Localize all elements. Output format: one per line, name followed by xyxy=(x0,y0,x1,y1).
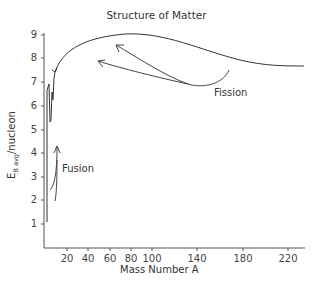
binding-energy-curve-light xyxy=(47,72,55,222)
svg-text:1: 1 xyxy=(31,218,37,229)
svg-text:5: 5 xyxy=(31,124,37,135)
svg-text:20: 20 xyxy=(61,253,74,264)
x-axis-label: Mass Number A xyxy=(120,264,199,275)
fission-arrowhead-lower-icon xyxy=(98,60,105,67)
svg-text:220: 220 xyxy=(278,253,297,264)
binding-energy-curve xyxy=(55,34,304,72)
svg-text:180: 180 xyxy=(233,253,252,264)
svg-text:7: 7 xyxy=(31,76,37,87)
y-tick-labels: 9 8 7 6 5 4 3 2 1 xyxy=(31,29,37,229)
svg-text:100: 100 xyxy=(142,253,161,264)
fusion-arrow-1 xyxy=(50,147,57,190)
svg-text:6: 6 xyxy=(31,100,37,111)
curve-arrowhead-icon xyxy=(52,68,57,72)
svg-text:9: 9 xyxy=(31,29,37,40)
svg-text:80: 80 xyxy=(125,253,138,264)
svg-text:60: 60 xyxy=(104,253,117,264)
fission-arrow-lower xyxy=(98,61,188,84)
svg-text:8: 8 xyxy=(31,52,37,63)
svg-text:2: 2 xyxy=(31,194,37,205)
fusion-label: Fusion xyxy=(62,163,94,174)
y-axis-label: EB avg/nucleon xyxy=(6,95,20,195)
fission-arrow-upper xyxy=(116,45,229,86)
chart-plot: 9 8 7 6 5 4 3 2 1 20 40 60 80 100 140 18… xyxy=(0,0,313,284)
svg-text:3: 3 xyxy=(31,171,37,182)
x-tick-labels: 20 40 60 80 100 140 180 220 xyxy=(61,253,298,264)
svg-text:4: 4 xyxy=(31,147,37,158)
svg-text:40: 40 xyxy=(82,253,95,264)
svg-text:140: 140 xyxy=(187,253,206,264)
fission-label: Fission xyxy=(214,87,247,98)
